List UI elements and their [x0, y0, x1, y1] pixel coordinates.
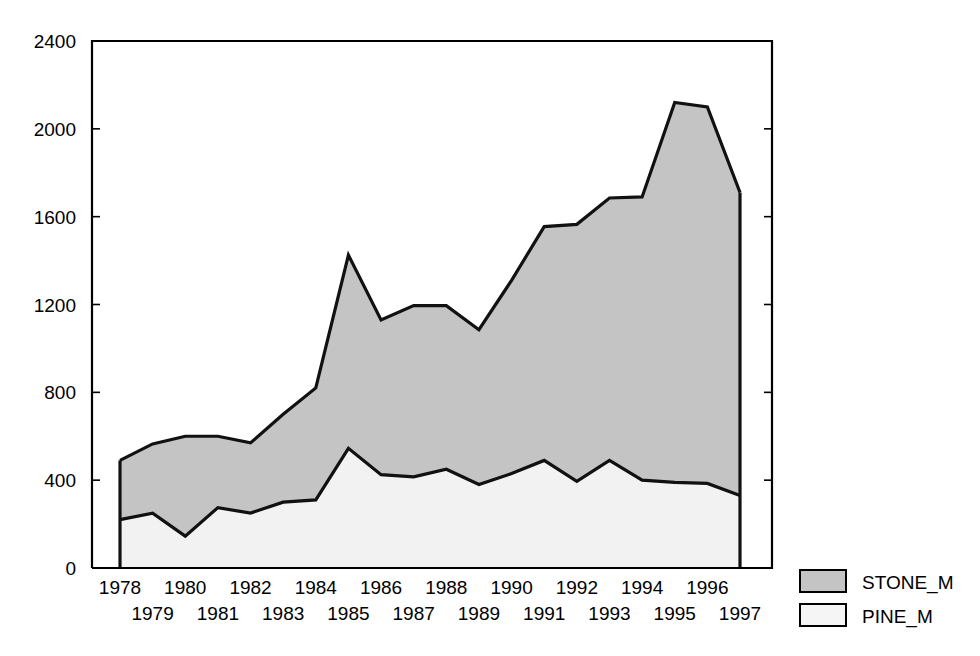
x-tick-label: 1991 [523, 603, 565, 624]
x-tick-label: 1981 [197, 603, 239, 624]
y-axis-tick-labels: 04008001200160020002400 [34, 31, 76, 579]
plot-area-fills [120, 102, 740, 568]
x-tick-label: 1997 [719, 603, 761, 624]
y-tick-label: 800 [44, 382, 76, 403]
x-tick-label: 1980 [164, 577, 206, 598]
y-tick-label: 2000 [34, 119, 76, 140]
legend-swatch [800, 604, 846, 626]
x-tick-label: 1982 [229, 577, 271, 598]
area-stone-m [120, 102, 740, 536]
x-tick-label: 1979 [131, 603, 173, 624]
y-tick-label: 1200 [34, 295, 76, 316]
y-tick-label: 0 [65, 558, 76, 579]
legend-swatch [800, 570, 846, 592]
x-tick-label: 1996 [686, 577, 728, 598]
x-tick-label: 1987 [393, 603, 435, 624]
y-tick-label: 2400 [34, 31, 76, 52]
area-chart: 04008001200160020002400 1978197919801981… [0, 0, 980, 656]
x-tick-label: 1990 [490, 577, 532, 598]
chart-container: 04008001200160020002400 1978197919801981… [0, 0, 980, 656]
y-tick-label: 400 [44, 470, 76, 491]
chart-legend: STONE_MPINE_M [800, 570, 954, 628]
x-tick-label: 1985 [327, 603, 369, 624]
x-tick-label: 1994 [621, 577, 664, 598]
legend-label: PINE_M [862, 606, 933, 628]
x-tick-label: 1978 [99, 577, 141, 598]
legend-label: STONE_M [862, 572, 954, 594]
x-tick-label: 1984 [295, 577, 338, 598]
x-tick-label: 1993 [588, 603, 630, 624]
x-tick-label: 1992 [556, 577, 598, 598]
x-tick-label: 1989 [458, 603, 500, 624]
x-tick-label: 1986 [360, 577, 402, 598]
y-tick-label: 1600 [34, 207, 76, 228]
x-tick-label: 1988 [425, 577, 467, 598]
x-axis-tick-labels: 1978197919801981198219831984198519861987… [99, 577, 761, 624]
x-tick-label: 1983 [262, 603, 304, 624]
x-tick-label: 1995 [654, 603, 696, 624]
